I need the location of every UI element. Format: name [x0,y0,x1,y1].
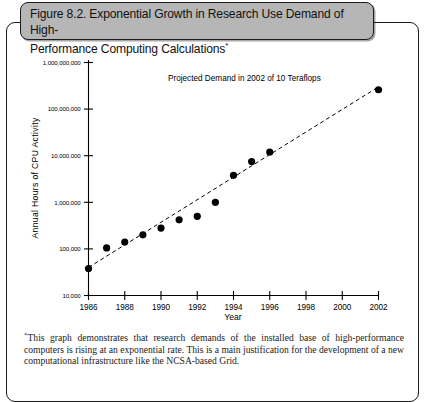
y-tick-label: 100,000 [59,245,81,252]
figure-title-text: Figure 8.2. Exponential Growth in Resear… [30,6,365,57]
y-tick-label: 10,000 [62,292,81,299]
data-point [194,213,201,220]
annotation-label: Projected Demand in 2002 of 10 Teraflops [168,74,321,83]
x-tick-label: 1992 [188,303,207,312]
y-axis-title: Annual Hours of CPU Activity [30,117,40,238]
data-point [230,172,237,179]
x-axis-title: Year [224,312,242,322]
x-axis-ticks: 198619881990199219941996199820002002 [79,291,388,312]
x-tick-label: 1994 [224,303,243,312]
data-point [103,244,110,251]
x-tick-label: 1996 [261,303,280,312]
x-tick-label: 1986 [79,303,98,312]
x-tick-label: 2000 [333,303,352,312]
data-point [375,86,382,93]
data-point [139,231,146,238]
figure-footnote: *This graph demonstrates that research d… [24,330,404,366]
chart-annotation: Projected Demand in 2002 of 10 Teraflops [168,74,321,83]
x-tick-label: 1998 [297,303,316,312]
data-point [176,216,183,223]
title-footnote-marker: * [225,41,228,50]
x-tick-label: 2002 [369,303,388,312]
data-point-series [85,86,382,272]
footnote-text: This graph demonstrates that research de… [24,332,404,366]
data-point [121,238,128,245]
x-tick-label: 1988 [116,303,135,312]
figure-title-box: Figure 8.2. Exponential Growth in Resear… [20,2,374,40]
data-point [212,199,219,206]
data-point [85,265,92,272]
y-axis-ticks: 1,000,000,000100,000,00010,000,0001,000,… [43,59,93,299]
data-point [157,224,164,231]
data-point [266,148,273,155]
y-tick-label: 100,000,000 [48,105,81,112]
y-tick-label: 10,000,000 [51,152,81,159]
x-tick-label: 1990 [152,303,171,312]
data-point [248,158,255,165]
y-tick-label: 1,000,000,000 [43,59,81,66]
y-tick-label: 1,000,000 [54,199,81,206]
